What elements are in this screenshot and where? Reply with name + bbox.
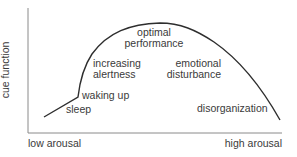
- y-axis-label: cue function: [0, 42, 11, 99]
- label-increasing-line2: alertness: [93, 69, 141, 80]
- label-sleep: sleep: [66, 104, 91, 115]
- label-optimal-performance: optimal performance: [123, 27, 185, 49]
- label-increasing-alertness: increasing alertness: [93, 58, 141, 80]
- x-axis-high-label: high arousal: [212, 138, 282, 149]
- x-axis-low-label: low arousal: [28, 138, 81, 149]
- label-waking-up: waking up: [82, 90, 129, 101]
- label-emotional-disturbance: emotional disturbance: [165, 58, 221, 80]
- label-optimal-line2: performance: [123, 38, 185, 49]
- label-emotional-line2: disturbance: [165, 69, 221, 80]
- arousal-curve-chart: [0, 0, 297, 157]
- label-disorganization: disorganization: [197, 103, 268, 114]
